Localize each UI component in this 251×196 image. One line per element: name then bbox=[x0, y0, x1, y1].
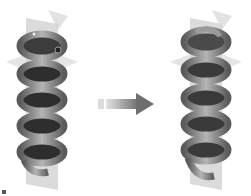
coil-turns bbox=[184, 30, 228, 177]
helical-coil-before bbox=[2, 0, 82, 196]
coil-end-marker bbox=[55, 47, 61, 53]
coil-turns bbox=[20, 34, 64, 173]
helical-coil-after bbox=[166, 0, 246, 196]
corner-mark bbox=[2, 190, 6, 194]
transform-arrow-icon bbox=[98, 92, 156, 116]
